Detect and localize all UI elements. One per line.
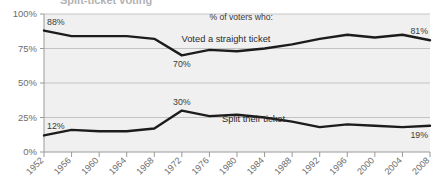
data-point-label: 30% [173,97,191,107]
line-chart: 0%25%50%75%100%1952195619601964196819721… [0,0,441,185]
chart-container: Split-ticket voting 0%25%50%75%100%19521… [0,0,441,185]
x-axis-label: 1956 [52,155,73,176]
y-axis-label: 0% [23,146,37,157]
x-axis-label: 1976 [190,155,211,176]
x-axis-label: 2000 [355,155,376,176]
y-axis-label: 50% [18,77,38,88]
series-inline-label: Voted a straight ticket [182,34,271,44]
chart-header-note: % of voters who: [209,12,273,22]
x-axis-label: 2008 [410,155,431,176]
y-axis-label: 100% [13,8,38,19]
x-axis-label: 1960 [79,155,100,176]
x-axis-label: 1964 [107,155,128,176]
x-axis-label: 1996 [327,155,348,176]
x-axis-label: 1968 [134,155,155,176]
x-axis-label: 1992 [300,155,321,176]
data-point-label: 88% [47,17,65,27]
data-point-label: 81% [410,26,428,36]
x-axis-label: 1952 [24,155,45,176]
series-inline-label: Split their ticket [222,114,285,124]
x-axis-label: 1988 [272,155,293,176]
y-axis-label: 25% [18,112,38,123]
x-axis-label: 1980 [217,155,238,176]
data-point-label: 70% [173,59,191,69]
page-title: Split-ticket voting [60,0,152,6]
y-axis-label: 75% [18,43,38,54]
x-axis-label: 1972 [162,155,183,176]
data-point-label: 12% [47,121,65,131]
data-point-label: 19% [410,130,428,140]
x-axis-label: 2004 [383,155,404,176]
x-axis-label: 1984 [245,155,266,176]
